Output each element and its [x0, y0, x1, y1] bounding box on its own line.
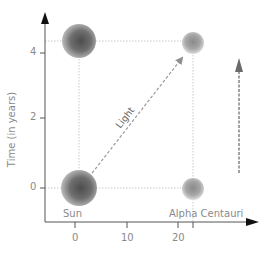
- sun-label: Sun: [63, 209, 82, 219]
- y-axis: [40, 12, 49, 222]
- x-axis-arrowhead-icon: [246, 218, 259, 226]
- alpha-centauri-bottom: [182, 178, 204, 200]
- x-tick-label-0: 0: [72, 233, 78, 243]
- y-tick-label-2: 2: [30, 112, 36, 122]
- x-axis: [45, 218, 259, 228]
- y-axis-arrowhead-icon: [41, 12, 49, 24]
- alpha-centauri-top: [182, 32, 204, 54]
- y-tick-label-0: 0: [30, 182, 36, 192]
- sun-bottom: [61, 170, 97, 206]
- time-arrowhead-icon: [235, 58, 243, 72]
- light-arrow: [89, 58, 182, 177]
- sun-top: [62, 24, 96, 58]
- y-tick-label-4: 4: [30, 47, 36, 57]
- time-arrow: [235, 58, 243, 173]
- x-tick-label-10: 10: [121, 233, 134, 243]
- x-tick-label-20: 20: [172, 233, 185, 243]
- alpha-centauri-label: Alpha Centauri: [169, 209, 243, 219]
- y-axis-label: Time (in years): [6, 90, 17, 170]
- spacetime-diagram: 4 2 0 Time (in years) 0 10 20 Sun Alpha …: [0, 0, 273, 254]
